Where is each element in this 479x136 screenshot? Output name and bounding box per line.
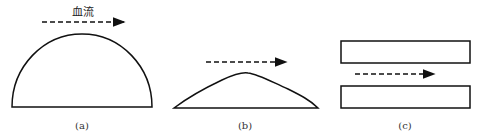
top-plate xyxy=(341,41,470,63)
dome-shape xyxy=(174,73,318,108)
flow-diagram: 血流 (a) (b) (c) xyxy=(0,0,479,136)
bottom-plate xyxy=(341,86,470,108)
semicircle-shape xyxy=(12,34,152,107)
caption-c: (c) xyxy=(398,120,412,131)
caption-a: (a) xyxy=(75,120,89,131)
flow-label: 血流 xyxy=(72,5,94,19)
panel-b: (b) xyxy=(174,62,318,131)
caption-b: (b) xyxy=(238,120,252,131)
panel-a: 血流 (a) xyxy=(12,5,152,131)
panel-c: (c) xyxy=(341,41,470,131)
